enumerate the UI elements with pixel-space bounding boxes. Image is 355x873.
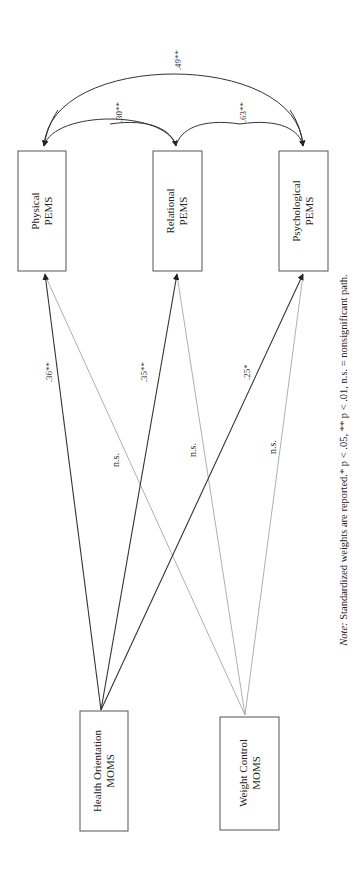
path-health-psychological: [101, 274, 303, 710]
label-relational-line2: PEMS: [177, 197, 189, 226]
note-text: Standardized weights are reported.* p < …: [338, 274, 349, 622]
coef-weight-physical: n.s.: [110, 453, 121, 467]
coef-relational-psychological: .63**: [238, 101, 248, 122]
coef-health-psychological: .25*: [242, 364, 252, 380]
label-weight-line2: MOMS: [250, 756, 262, 790]
correlation-arcs: [44, 74, 303, 146]
figure-note: Note: Standardized weights are reported.…: [338, 274, 349, 646]
path-weight-psychological: [245, 275, 303, 715]
arc-relational-psychological: [176, 122, 240, 146]
label-weight-line1: Weight Control: [237, 739, 249, 807]
note-prefix: Note:: [338, 622, 349, 646]
label-psychological-line1: Psychological: [290, 180, 302, 242]
label-health-line1: Health Orientation: [91, 729, 103, 812]
arc-physical-relational-start: [110, 122, 176, 146]
path-weight-relational: [177, 275, 245, 715]
label-health-line2: MOMS: [104, 754, 116, 788]
coef-physical-psychological: .49**: [173, 49, 183, 70]
coef-weight-psychological: n.s.: [267, 440, 278, 454]
arc-physical-relational: [44, 119, 176, 146]
nonsignificant-paths: [45, 275, 303, 715]
path-weight-physical: [45, 275, 245, 715]
significant-paths: [45, 274, 303, 710]
arc-relational-psychological-end: [240, 122, 303, 146]
label-physical-line2: PEMS: [42, 197, 54, 226]
coef-health-physical: .36**: [44, 361, 54, 382]
label-psychological-line2: PEMS: [303, 197, 315, 226]
path-health-physical: [45, 274, 101, 710]
coef-health-relational: .35**: [139, 361, 149, 382]
label-relational-line1: Relational: [164, 188, 176, 233]
coef-weight-relational: n.s.: [187, 443, 198, 457]
label-physical-line1: Physical: [29, 192, 41, 229]
coef-physical-relational: .30**: [114, 101, 124, 122]
arc-physical-psychological: [44, 74, 303, 146]
path-diagram: Physical PEMS Relational PEMS Psychologi…: [0, 0, 355, 873]
path-health-relational: [101, 274, 177, 710]
